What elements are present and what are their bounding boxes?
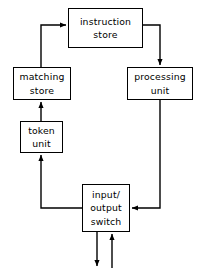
node-processing-unit-line-2: unit [151,84,170,98]
node-input-output-switch-line-2: output [90,201,122,215]
node-input-output-switch-line-1: input/ [92,188,120,202]
edge-processing-unit-to-input-output-switch [132,100,160,208]
node-token-unit[interactable]: token unit [20,121,63,153]
node-processing-unit-line-1: processing [134,70,186,84]
edge-input-output-switch-to-token-unit [41,155,82,208]
node-matching-store-line-2: store [30,84,54,98]
node-processing-unit[interactable]: processing unit [127,67,193,100]
node-instruction-store-line-1: instruction [80,15,131,29]
edge-matching-store-to-instruction-store [41,25,66,67]
node-token-unit-line-2: unit [32,137,51,151]
node-matching-store[interactable]: matching store [13,67,71,100]
node-input-output-switch[interactable]: input/ output switch [82,184,130,232]
node-matching-store-line-1: matching [20,70,65,84]
node-input-output-switch-line-3: switch [91,215,122,229]
node-token-unit-line-1: token [28,124,55,138]
edge-instruction-store-to-processing-unit [143,25,160,65]
node-instruction-store[interactable]: instruction store [68,8,143,48]
diagram-canvas: instruction store matching store process… [0,0,202,276]
node-instruction-store-line-2: store [93,28,117,42]
